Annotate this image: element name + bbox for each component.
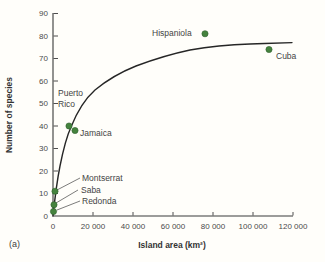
data-point-hispaniola [202, 31, 208, 37]
y-tick-label: 10 [39, 189, 48, 198]
y-tick-label: 60 [39, 77, 48, 86]
y-tick-label: 70 [39, 54, 48, 63]
x-tick-label: 20 000 [81, 222, 106, 231]
data-point-saba [51, 202, 57, 208]
y-tick-label: 80 [39, 32, 48, 41]
data-point-puerto-rico [66, 123, 72, 129]
y-tick-label: 20 [39, 167, 48, 176]
point-label-montserrat: Montserrat [82, 173, 123, 184]
point-label-jamaica: Jamaica [80, 128, 112, 139]
x-tick-label: 60 000 [161, 222, 186, 231]
point-label-cuba: Cuba [276, 51, 296, 62]
point-label-hispaniola: Hispaniola [152, 28, 192, 39]
axis-tick-labels: 0102030405060708090020 00040 00060 00080… [39, 9, 308, 231]
chart-canvas: 0102030405060708090020 00040 00060 00080… [0, 0, 325, 262]
data-point-jamaica [72, 127, 78, 133]
leader-line-redonda [57, 201, 80, 210]
data-point-montserrat [52, 188, 58, 194]
point-label-puerto-rico: Puerto Rico [58, 88, 94, 109]
data-point-cuba [266, 46, 272, 52]
y-axis-title: Number of species [4, 77, 14, 153]
x-axis-title: Island area (km²) [138, 240, 206, 250]
leader-line-montserrat [57, 178, 80, 190]
x-tick-label: 120 000 [279, 222, 308, 231]
panel-label: (a) [9, 239, 20, 249]
x-tick-label: 0 [51, 222, 56, 231]
point-label-redonda: Redonda [82, 196, 117, 207]
species-area-figure: 0102030405060708090020 00040 00060 00080… [0, 0, 325, 262]
x-tick-label: 100 000 [239, 222, 268, 231]
y-tick-label: 30 [39, 144, 48, 153]
y-tick-label: 40 [39, 122, 48, 131]
x-tick-label: 40 000 [121, 222, 146, 231]
data-point-redonda [50, 208, 56, 214]
point-label-saba: Saba [81, 185, 101, 196]
y-tick-label: 90 [39, 9, 48, 18]
y-tick-label: 0 [44, 212, 49, 221]
leader-lines [56, 178, 80, 210]
leader-line-saba [56, 190, 78, 203]
y-tick-label: 50 [39, 99, 48, 108]
x-tick-label: 80 000 [201, 222, 226, 231]
